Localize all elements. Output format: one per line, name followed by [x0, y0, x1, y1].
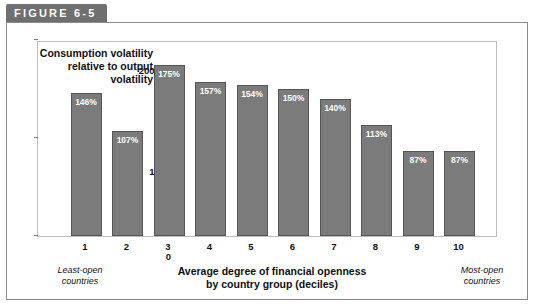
bar-value-label: 150% — [278, 93, 309, 103]
x-tick-label-4: 4 — [194, 241, 225, 252]
bar-value-label: 113% — [361, 129, 392, 139]
bar-value-label: 175% — [154, 69, 185, 79]
x-tick-label-3: 3 — [153, 241, 184, 252]
bar-value-label: 107% — [112, 135, 143, 145]
x-tick-label-2: 2 — [111, 241, 142, 252]
y-axis-tick-100 — [34, 137, 38, 138]
x-tick-label-8: 8 — [360, 241, 391, 252]
bar[interactable] — [154, 65, 185, 237]
bar[interactable] — [361, 125, 392, 236]
bar-value-label: 157% — [195, 86, 226, 96]
bar[interactable] — [195, 82, 226, 236]
x-tick-label-6: 6 — [277, 241, 308, 252]
plot-area: 146%107%175%157%154%150%140%113%87%87% — [37, 41, 497, 237]
figure-frame: Consumption volatility relative to outpu… — [6, 22, 528, 300]
y-tick-label-0: 0 — [137, 251, 171, 262]
x-tick-label-5: 5 — [236, 241, 267, 252]
bar[interactable] — [112, 131, 143, 236]
annotation-least-open-line1: Least-open — [57, 265, 102, 275]
x-axis-title: Average degree of financial openness by … — [147, 265, 397, 291]
x-axis-title-line1: Average degree of financial openness — [178, 265, 367, 277]
y-axis-tick-200 — [34, 39, 38, 40]
x-tick-label-1: 1 — [70, 241, 101, 252]
bar-series: 146%107%175%157%154%150%140%113%87%87% — [38, 42, 496, 236]
x-axis-title-line2: by country group (deciles) — [206, 278, 338, 290]
annotation-least-open-line2: countries — [62, 276, 99, 286]
annotation-most-open-line2: countries — [464, 276, 501, 286]
bar-value-label: 87% — [403, 155, 434, 165]
bar-value-label: 154% — [237, 89, 268, 99]
x-tick-label-7: 7 — [319, 241, 350, 252]
bar-value-label: 87% — [444, 155, 475, 165]
bar[interactable] — [320, 99, 351, 236]
bar[interactable] — [278, 89, 309, 236]
figure-number-tab: FIGURE 6-5 — [6, 4, 107, 23]
x-tick-label-9: 9 — [402, 241, 433, 252]
bar[interactable] — [71, 93, 102, 236]
y-axis-tick-0 — [34, 235, 38, 236]
annotation-most-open-line1: Most-open — [461, 265, 504, 275]
bar-value-label: 146% — [71, 97, 102, 107]
bar[interactable] — [237, 85, 268, 236]
annotation-most-open: Most-open countries — [445, 265, 519, 287]
annotation-least-open: Least-open countries — [43, 265, 117, 287]
bar-value-label: 140% — [320, 103, 351, 113]
x-tick-label-10: 10 — [443, 241, 474, 252]
figure-page: FIGURE 6-5 Consumption volatility relati… — [0, 0, 537, 306]
